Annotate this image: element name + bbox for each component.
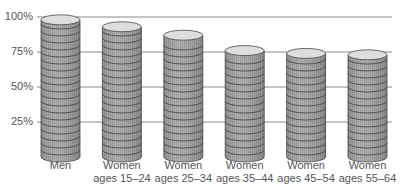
- cylinder-bar: [102, 22, 141, 162]
- cylinder-bar-chart: 25%50%75%100%MenWomenages 15–24Womenages…: [0, 0, 401, 185]
- y-tick-label: 75%: [3, 45, 33, 57]
- cylinder-bar: [164, 30, 203, 162]
- x-category-label: Womenages 15–24: [87, 159, 157, 185]
- cylinder-bar: [287, 48, 326, 162]
- cylinder-bar: [225, 46, 264, 162]
- y-tick-label: 100%: [3, 10, 33, 22]
- cylinder-bar: [41, 15, 80, 162]
- x-category-label: Womenages 55–64: [333, 159, 401, 185]
- chart-plot-area: [0, 0, 401, 185]
- x-category-label: Womenages 35–44: [210, 159, 280, 185]
- cylinder-bar: [348, 50, 387, 162]
- x-category-label: Men: [26, 159, 96, 172]
- y-tick-label: 50%: [3, 80, 33, 92]
- y-tick-label: 25%: [3, 115, 33, 127]
- x-category-label: Womenages 25–34: [148, 159, 218, 185]
- x-category-label: Womenages 45–54: [271, 159, 341, 185]
